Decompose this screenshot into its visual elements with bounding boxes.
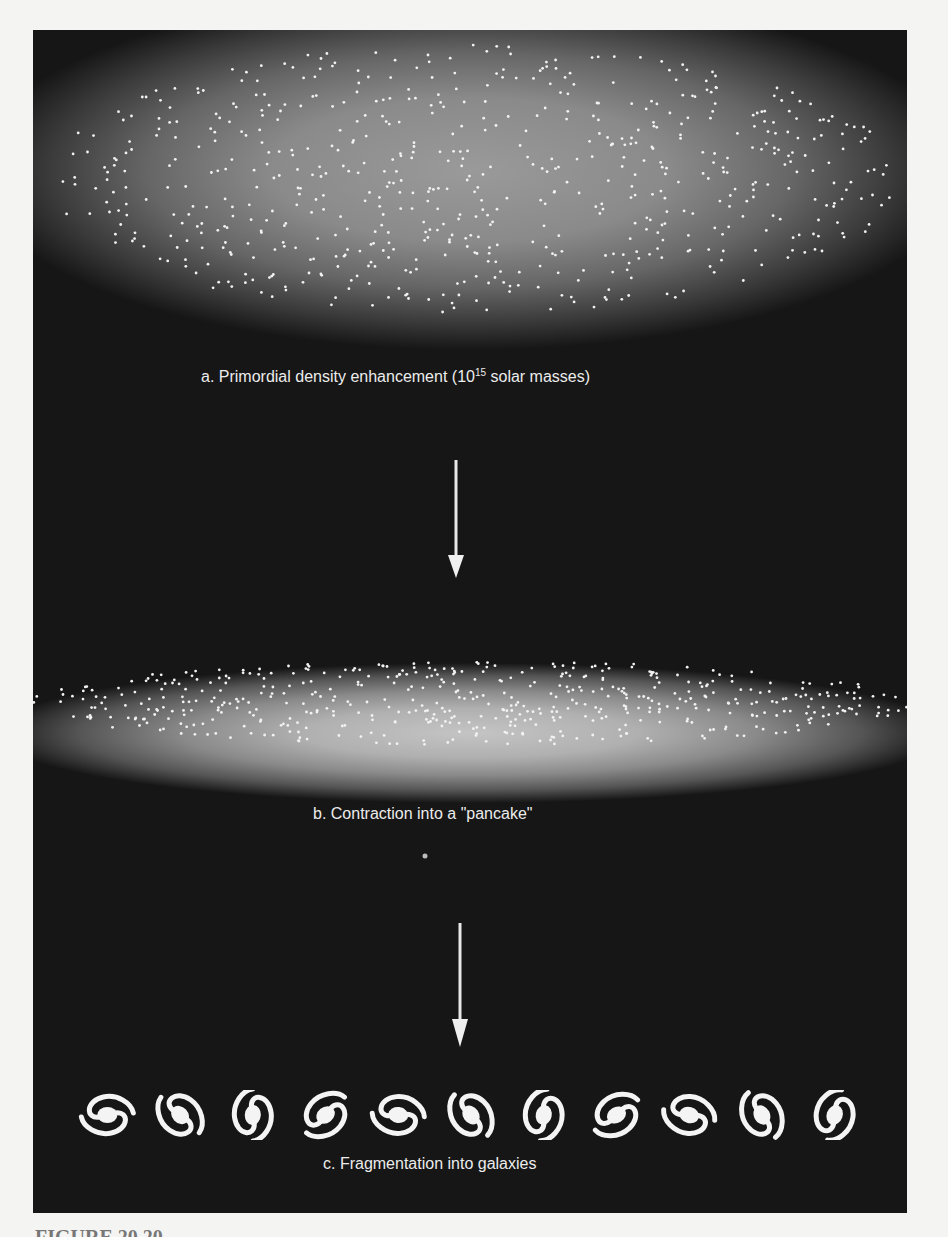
label-c: c. Fragmentation into galaxies [323,1155,536,1173]
galaxy-row [71,1090,871,1140]
galaxy-icon [81,1096,133,1133]
galaxy-icon [294,1090,358,1140]
galaxy-icon [370,1093,427,1137]
galaxy-icon [659,1090,719,1140]
galaxy-icon [585,1090,649,1140]
label-b: b. Contraction into a "pancake" [313,805,533,823]
arrow-down-icon [450,923,470,1051]
galaxy-icon [441,1090,501,1140]
galaxy-icon [520,1090,567,1140]
galaxy-icon [734,1090,791,1140]
small-dot [421,852,429,860]
figure-caption: FIGURE 20.20 [35,1224,163,1237]
galaxy-icon [808,1090,861,1140]
galaxy-icon [232,1090,273,1140]
star-field-b [33,30,907,830]
figure-panel: a. Primordial density enhancement (1015 … [33,30,907,1213]
galaxy-icon [149,1090,212,1140]
